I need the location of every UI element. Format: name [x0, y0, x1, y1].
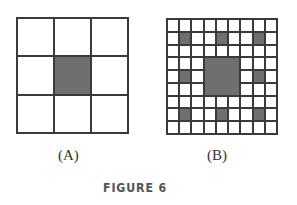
grid-cell — [265, 19, 277, 32]
grid-cell — [265, 70, 277, 83]
grid-cell — [228, 45, 240, 58]
grid-cell — [179, 45, 191, 58]
grid-cell — [179, 96, 191, 109]
grid-cell — [253, 83, 265, 96]
grid-cell — [191, 19, 203, 32]
grid-cell — [240, 57, 252, 70]
grid-cell — [167, 108, 179, 121]
grid-cell — [54, 95, 91, 133]
filled-cell — [54, 56, 91, 94]
grid-cell — [265, 83, 277, 96]
grid-cell — [265, 108, 277, 121]
grid-cell — [253, 121, 265, 134]
grid-cell — [240, 45, 252, 58]
panel-label-a: (A) — [58, 147, 79, 164]
grid-cell — [265, 121, 277, 134]
grid-cell — [167, 45, 179, 58]
grid-cell — [191, 83, 203, 96]
grid-cell — [54, 18, 91, 56]
sierpinski-carpet-stage-b — [166, 18, 278, 135]
filled-cell — [216, 108, 228, 121]
grid-cell — [253, 96, 265, 109]
grid-cell — [216, 121, 228, 134]
grid-cell — [179, 57, 191, 70]
grid-cell — [204, 32, 216, 45]
filled-cell — [179, 70, 191, 83]
grid-cell — [191, 70, 203, 83]
filled-cell — [179, 108, 191, 121]
grid-cell — [91, 95, 128, 133]
grid-cell — [240, 83, 252, 96]
grid-cell — [191, 121, 203, 134]
grid-cell — [179, 83, 191, 96]
grid-cell — [240, 32, 252, 45]
filled-cell — [179, 32, 191, 45]
grid-cell — [167, 96, 179, 109]
grid-cell — [228, 121, 240, 134]
grid-cell — [265, 32, 277, 45]
filled-cell — [216, 32, 228, 45]
grid-cell — [204, 19, 216, 32]
grid-cell — [179, 121, 191, 134]
grid-cell — [265, 57, 277, 70]
grid-cell — [167, 83, 179, 96]
grid-cell — [191, 108, 203, 121]
grid-cell — [216, 45, 228, 58]
grid-cell — [253, 57, 265, 70]
grid-cell — [240, 108, 252, 121]
grid-cell — [167, 70, 179, 83]
grid-cell — [167, 121, 179, 134]
panel-label-b: (B) — [207, 147, 227, 164]
grid-cell — [167, 57, 179, 70]
grid-cell — [265, 96, 277, 109]
figure-caption: FIGURE 6 — [103, 180, 167, 195]
grid-cell — [216, 96, 228, 109]
grid-cell — [253, 19, 265, 32]
grid-cell — [240, 19, 252, 32]
grid-cell — [191, 96, 203, 109]
sierpinski-carpet-stage-a — [16, 17, 129, 134]
grid-cell — [228, 32, 240, 45]
grid-cell — [240, 121, 252, 134]
filled-cell — [253, 70, 265, 83]
grid-cell — [240, 96, 252, 109]
grid-cell — [240, 70, 252, 83]
grid-cell — [191, 32, 203, 45]
grid-cell — [265, 45, 277, 58]
grid-cell — [228, 19, 240, 32]
grid-cell — [216, 19, 228, 32]
grid-cell — [91, 56, 128, 94]
grid-cell — [204, 96, 216, 109]
grid-cell — [204, 45, 216, 58]
grid-cell — [228, 108, 240, 121]
grid-cell — [167, 32, 179, 45]
grid-cell — [167, 19, 179, 32]
filled-cell — [253, 108, 265, 121]
grid-cell — [253, 45, 265, 58]
grid-cell — [179, 19, 191, 32]
grid-cell — [204, 121, 216, 134]
filled-cell — [253, 32, 265, 45]
grid-cell — [228, 96, 240, 109]
grid-cell — [17, 95, 54, 133]
grid-cell — [17, 18, 54, 56]
grid-cell — [204, 108, 216, 121]
filled-center-block — [204, 57, 241, 95]
grid-cell — [191, 57, 203, 70]
grid-cell — [191, 45, 203, 58]
grid-cell — [91, 18, 128, 56]
grid-cell — [17, 56, 54, 94]
